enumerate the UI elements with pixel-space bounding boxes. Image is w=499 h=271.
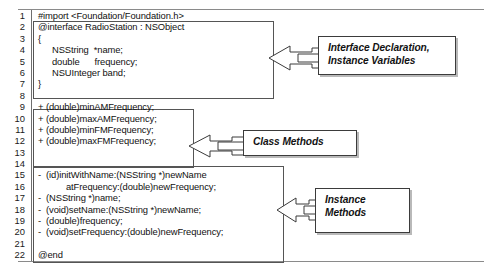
bottom-rule <box>18 261 484 262</box>
line-number: 6 <box>0 67 25 78</box>
code-line: 21 <box>0 238 499 249</box>
line-number: 16 <box>0 181 25 192</box>
code-line: 17- (NSString *)name; <box>0 192 499 203</box>
callout-interface-line1: Interface Declaration, <box>328 42 455 55</box>
callout-class-line1: Class Methods <box>253 136 356 149</box>
code-text: - (double)frequency; <box>38 215 122 226</box>
line-number: 8 <box>0 90 25 101</box>
code-line: 2@interface RadioStation : NSObject <box>0 21 499 32</box>
code-text: @end <box>38 249 63 260</box>
code-line: 8 <box>0 90 499 101</box>
code-text: @interface RadioStation : NSObject <box>38 21 184 32</box>
code-text: #import <Foundation/Foundation.h> <box>38 10 184 21</box>
code-text: } <box>38 78 41 89</box>
code-text: - (id)initWithName:(NSString *)newName <box>38 169 207 180</box>
line-number: 12 <box>0 135 25 146</box>
code-line: 20- (void)setFrequency:(double)newFreque… <box>0 226 499 237</box>
code-line: 15- (id)initWithName:(NSString *)newName <box>0 169 499 180</box>
code-text: { <box>38 33 41 44</box>
callout-instance-line1: Instance <box>325 194 409 207</box>
line-number: 19 <box>0 215 25 226</box>
code-text: - (void)setFrequency:(double)newFrequenc… <box>38 226 223 237</box>
callout-class-methods: Class Methods <box>243 130 357 156</box>
callout-instance-methods: Instance Methods <box>315 188 410 233</box>
line-number: 4 <box>0 44 25 55</box>
line-number: 17 <box>0 192 25 203</box>
code-text: + (double)minFMFrequency; <box>38 124 154 135</box>
line-number: 22 <box>0 249 25 260</box>
line-number: 9 <box>0 101 25 112</box>
code-line: 16atFrequency:(double)newFrequency; <box>0 181 499 192</box>
line-number: 7 <box>0 78 25 89</box>
code-text: - (void)setName:(NSString *)newName; <box>38 204 201 215</box>
line-number: 14 <box>0 158 25 169</box>
line-number: 2 <box>0 21 25 32</box>
callout-instance-line2: Methods <box>325 207 409 220</box>
code-line: 1#import <Foundation/Foundation.h> <box>0 10 499 21</box>
code-line: 10+ (double)maxAMFrequency; <box>0 113 499 124</box>
line-number: 13 <box>0 147 25 158</box>
line-number: 10 <box>0 113 25 124</box>
line-number: 18 <box>0 204 25 215</box>
callout-interface-declaration: Interface Declaration, Instance Variable… <box>318 36 456 75</box>
code-line: 19- (double)frequency; <box>0 215 499 226</box>
line-number: 3 <box>0 33 25 44</box>
code-line: 18- (void)setName:(NSString *)newName; <box>0 204 499 215</box>
line-number: 5 <box>0 56 25 67</box>
line-number: 21 <box>0 238 25 249</box>
code-line: 22@end <box>0 249 499 260</box>
code-line: 9+ (double)minAMFrequency; <box>0 101 499 112</box>
callout-interface-line2: Instance Variables <box>328 55 455 68</box>
code-text: double frequency; <box>52 56 137 67</box>
code-line: 7} <box>0 78 499 89</box>
figure-root: 1#import <Foundation/Foundation.h>2@inte… <box>0 0 499 271</box>
code-text: NSUInteger band; <box>52 67 125 78</box>
code-line: 14 <box>0 158 499 169</box>
code-text: + (double)minAMFrequency; <box>38 101 154 112</box>
line-number: 11 <box>0 124 25 135</box>
line-number: 15 <box>0 169 25 180</box>
code-text: atFrequency:(double)newFrequency; <box>66 181 216 192</box>
code-text: - (NSString *)name; <box>38 192 120 203</box>
code-text: + (double)maxFMFrequency; <box>38 135 156 146</box>
line-number: 20 <box>0 226 25 237</box>
code-text: + (double)maxAMFrequency; <box>38 113 157 124</box>
code-text: NSString *name; <box>52 44 123 55</box>
line-number: 1 <box>0 10 25 21</box>
